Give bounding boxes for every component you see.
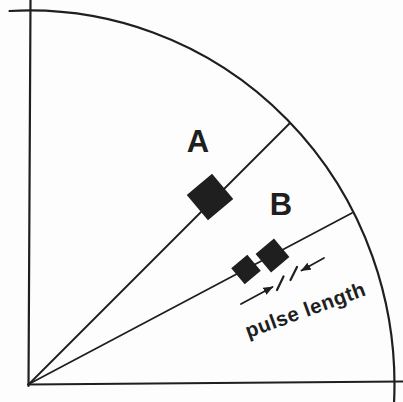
target-a-label: A [187, 124, 209, 159]
vertical-axis-line [29, 0, 31, 386]
target-b-square-left [231, 255, 261, 285]
dimension-tick-right [291, 267, 298, 280]
target-a-square [187, 174, 233, 220]
target-b-label: B [270, 187, 292, 222]
dimension-tick-left [277, 277, 284, 291]
horizontal-axis-line [28, 382, 403, 385]
ray-a-line [29, 123, 290, 384]
dimension-arrow-right-icon [302, 258, 325, 271]
pulse-length-label: pulse length [242, 277, 369, 342]
quarter-circle-diagram: A B pulse length [0, 0, 403, 402]
dimension-arrow-left-icon [241, 287, 273, 304]
beam-resolution-figure: A B pulse length [0, 0, 403, 402]
target-b-square-right [256, 239, 290, 273]
